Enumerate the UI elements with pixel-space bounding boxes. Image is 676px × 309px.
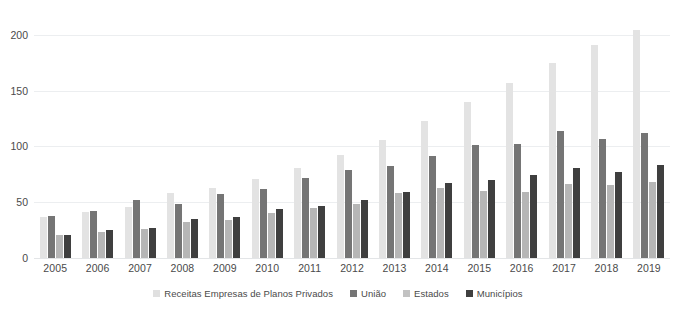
bar-group-2008 bbox=[161, 18, 203, 258]
bar-2019-series-0[interactable] bbox=[633, 30, 640, 258]
bar-2010-series-1[interactable] bbox=[260, 189, 267, 258]
bar-2018-series-1[interactable] bbox=[599, 139, 606, 258]
x-axis-tick-2019: 2019 bbox=[628, 262, 670, 274]
bar-2010-series-3[interactable] bbox=[276, 209, 283, 258]
bar-2018-series-2[interactable] bbox=[607, 185, 614, 258]
bar-2019-series-2[interactable] bbox=[649, 182, 656, 258]
bar-2010-series-2[interactable] bbox=[268, 213, 275, 258]
legend-item-series-1[interactable]: União bbox=[350, 288, 386, 299]
x-axis-tick-2010: 2010 bbox=[246, 262, 288, 274]
legend-swatch-series-3 bbox=[466, 290, 473, 297]
bar-group-2013 bbox=[373, 18, 415, 258]
bar-2015-series-3[interactable] bbox=[488, 180, 495, 258]
legend-label-series-0: Receitas Empresas de Planos Privados bbox=[164, 288, 333, 299]
bar-2008-series-2[interactable] bbox=[183, 222, 190, 258]
bar-2009-series-0[interactable] bbox=[209, 188, 216, 258]
chart-legend: Receitas Empresas de Planos PrivadosUniã… bbox=[0, 288, 676, 299]
bar-2012-series-3[interactable] bbox=[361, 200, 368, 258]
bar-2016-series-3[interactable] bbox=[530, 175, 537, 258]
legend-swatch-series-2 bbox=[403, 290, 410, 297]
x-axis-tick-2005: 2005 bbox=[34, 262, 76, 274]
legend-label-series-3: Municípios bbox=[477, 288, 523, 299]
bar-2007-series-1[interactable] bbox=[133, 200, 140, 258]
bar-2013-series-0[interactable] bbox=[379, 140, 386, 258]
bar-2011-series-2[interactable] bbox=[310, 208, 317, 258]
bar-2015-series-0[interactable] bbox=[464, 102, 471, 258]
bar-2012-series-2[interactable] bbox=[353, 204, 360, 258]
y-axis-tick-100: 100 bbox=[0, 140, 28, 152]
x-axis-tick-2011: 2011 bbox=[288, 262, 330, 274]
bar-groups bbox=[34, 18, 670, 258]
bar-2005-series-0[interactable] bbox=[40, 217, 47, 258]
bar-2014-series-0[interactable] bbox=[421, 121, 428, 258]
bar-group-2018 bbox=[585, 18, 627, 258]
bar-group-2012 bbox=[331, 18, 373, 258]
legend-item-series-2[interactable]: Estados bbox=[403, 288, 449, 299]
bar-2011-series-3[interactable] bbox=[318, 206, 325, 258]
bar-2009-series-2[interactable] bbox=[225, 220, 232, 258]
bar-2007-series-3[interactable] bbox=[149, 228, 156, 258]
bar-2012-series-1[interactable] bbox=[345, 170, 352, 258]
bar-2006-series-1[interactable] bbox=[90, 211, 97, 258]
bar-2012-series-0[interactable] bbox=[337, 155, 344, 258]
bar-2006-series-0[interactable] bbox=[82, 212, 89, 258]
bar-2013-series-3[interactable] bbox=[403, 192, 410, 258]
bar-2006-series-2[interactable] bbox=[98, 232, 105, 258]
bar-2011-series-0[interactable] bbox=[294, 168, 301, 258]
legend-item-series-0[interactable]: Receitas Empresas de Planos Privados bbox=[153, 288, 333, 299]
bar-group-2015 bbox=[458, 18, 500, 258]
bar-2016-series-1[interactable] bbox=[514, 144, 521, 258]
bar-2017-series-3[interactable] bbox=[573, 168, 580, 258]
bar-2013-series-2[interactable] bbox=[395, 193, 402, 258]
bar-2018-series-0[interactable] bbox=[591, 45, 598, 258]
bar-2005-series-1[interactable] bbox=[48, 216, 55, 258]
bar-2008-series-3[interactable] bbox=[191, 219, 198, 258]
x-axis-labels: 2005200620072008200920102011201220132014… bbox=[34, 262, 670, 274]
bar-2005-series-2[interactable] bbox=[56, 235, 63, 258]
bar-2016-series-0[interactable] bbox=[506, 83, 513, 258]
bar-2006-series-3[interactable] bbox=[106, 230, 113, 258]
bar-2016-series-2[interactable] bbox=[522, 192, 529, 258]
bar-2005-series-3[interactable] bbox=[64, 235, 71, 258]
bar-group-2005 bbox=[34, 18, 76, 258]
legend-label-series-1: União bbox=[361, 288, 386, 299]
bar-2015-series-2[interactable] bbox=[480, 191, 487, 258]
bar-2007-series-0[interactable] bbox=[125, 207, 132, 258]
bar-group-2016 bbox=[500, 18, 542, 258]
x-axis-tick-2006: 2006 bbox=[76, 262, 118, 274]
y-axis-tick-150: 150 bbox=[0, 85, 28, 97]
bar-2019-series-3[interactable] bbox=[657, 165, 664, 258]
bar-2008-series-0[interactable] bbox=[167, 193, 174, 258]
bar-2010-series-0[interactable] bbox=[252, 179, 259, 258]
bar-2014-series-1[interactable] bbox=[429, 156, 436, 258]
x-axis-tick-2007: 2007 bbox=[119, 262, 161, 274]
bar-2015-series-1[interactable] bbox=[472, 145, 479, 258]
x-axis-tick-2017: 2017 bbox=[543, 262, 585, 274]
legend-swatch-series-0 bbox=[153, 290, 160, 297]
bar-group-2007 bbox=[119, 18, 161, 258]
bar-2017-series-0[interactable] bbox=[549, 63, 556, 258]
bar-2009-series-1[interactable] bbox=[217, 194, 224, 258]
x-axis-tick-2013: 2013 bbox=[373, 262, 415, 274]
gridline-0 bbox=[34, 258, 670, 259]
bar-2008-series-1[interactable] bbox=[175, 204, 182, 258]
bar-group-2006 bbox=[76, 18, 118, 258]
y-axis-tick-50: 50 bbox=[0, 196, 28, 208]
x-axis-tick-2014: 2014 bbox=[416, 262, 458, 274]
bar-2019-series-1[interactable] bbox=[641, 133, 648, 258]
bar-2009-series-3[interactable] bbox=[233, 217, 240, 258]
bar-2014-series-2[interactable] bbox=[437, 188, 444, 258]
x-axis-tick-2018: 2018 bbox=[585, 262, 627, 274]
y-axis-tick-0: 0 bbox=[0, 252, 28, 264]
legend-item-series-3[interactable]: Municípios bbox=[466, 288, 523, 299]
bar-group-2017 bbox=[543, 18, 585, 258]
bar-2013-series-1[interactable] bbox=[387, 166, 394, 258]
bar-2014-series-3[interactable] bbox=[445, 183, 452, 258]
bar-group-2019 bbox=[628, 18, 670, 258]
bar-2017-series-2[interactable] bbox=[565, 184, 572, 258]
bar-2007-series-2[interactable] bbox=[141, 229, 148, 258]
plot-area bbox=[34, 18, 670, 258]
bar-2018-series-3[interactable] bbox=[615, 172, 622, 258]
bar-2011-series-1[interactable] bbox=[302, 178, 309, 258]
bar-2017-series-1[interactable] bbox=[557, 131, 564, 258]
